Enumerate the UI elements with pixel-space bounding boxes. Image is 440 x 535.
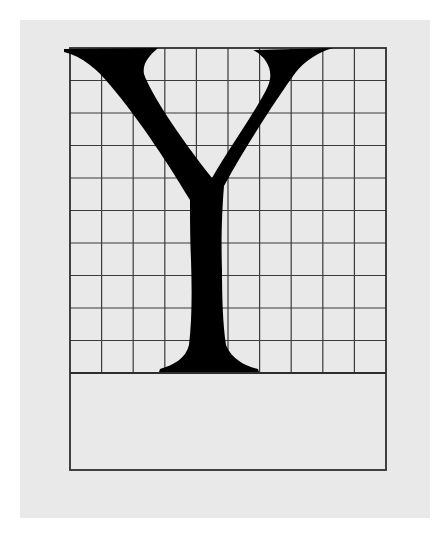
letter-grid-diagram bbox=[0, 0, 440, 535]
construction-grid bbox=[70, 48, 386, 373]
